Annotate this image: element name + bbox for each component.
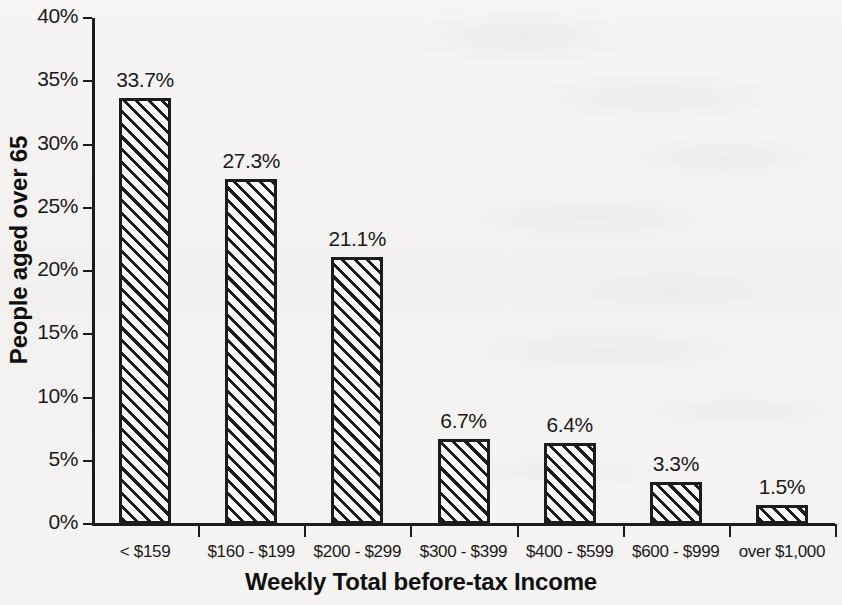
bar-value-label: 33.7% (85, 68, 205, 92)
y-axis-tick (83, 460, 92, 462)
bar-value-label: 21.1% (297, 227, 417, 251)
y-axis-tick (83, 17, 92, 19)
bar (544, 443, 596, 524)
x-axis-title: Weekly Total before-tax Income (0, 568, 842, 596)
y-axis-tick-label: 10% (20, 384, 78, 408)
y-axis-tick-label: 40% (20, 4, 78, 28)
y-axis-tick-label: 35% (20, 67, 78, 91)
x-axis-tick (623, 524, 625, 537)
x-axis-category-label: $300 - $399 (404, 542, 524, 562)
bar (119, 98, 171, 524)
x-axis-tick (198, 524, 200, 537)
bar (331, 257, 383, 524)
chart-page: People aged over 65 Weekly Total before-… (0, 0, 842, 605)
x-axis-tick (517, 524, 519, 537)
plot-area: 33.7%27.3%21.1%6.7%6.4%3.3%1.5% < $159$1… (92, 18, 835, 524)
bar-value-label: 27.3% (191, 149, 311, 173)
x-axis-category-label: $200 - $299 (297, 542, 417, 562)
y-axis-tick (83, 270, 92, 272)
y-axis-tick-label: 30% (20, 131, 78, 155)
bar (438, 439, 490, 524)
x-axis-category-label: $160 - $199 (191, 542, 311, 562)
bar-value-label: 3.3% (616, 452, 736, 476)
y-axis-line (92, 18, 95, 524)
y-axis-tick-label: 0% (20, 510, 78, 534)
y-axis-tick (83, 144, 92, 146)
bar (650, 482, 702, 524)
y-axis-tick-label: 25% (20, 194, 78, 218)
y-axis-tick (83, 523, 92, 525)
bar-value-label: 6.7% (404, 409, 524, 433)
y-axis-tick-label: 5% (20, 447, 78, 471)
bar (756, 505, 808, 524)
y-axis-tick (83, 333, 92, 335)
y-axis-tick (83, 397, 92, 399)
bar-value-label: 6.4% (510, 413, 630, 437)
bar-value-label: 1.5% (722, 475, 842, 499)
y-axis-tick (83, 207, 92, 209)
x-axis-tick (729, 524, 731, 537)
bar (225, 179, 277, 524)
y-axis-tick-label: 15% (20, 320, 78, 344)
x-axis-category-label: over $1,000 (722, 542, 842, 562)
x-axis-tick (410, 524, 412, 537)
x-axis-category-label: $400 - $599 (510, 542, 630, 562)
y-axis-tick-labels: 0%5%10%15%20%25%30%35%40% (16, 18, 78, 524)
y-axis-tick-label: 20% (20, 257, 78, 281)
x-axis-tick (835, 524, 837, 537)
x-axis-category-label: < $159 (85, 542, 205, 562)
x-axis-tick (304, 524, 306, 537)
x-axis-category-label: $600 - $999 (616, 542, 736, 562)
